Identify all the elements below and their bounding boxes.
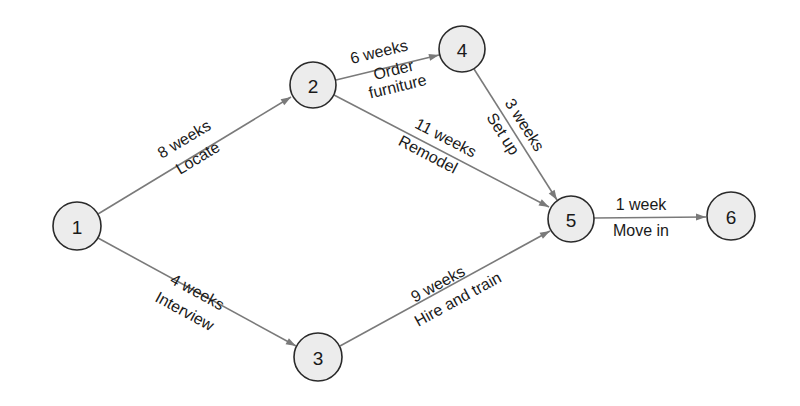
node-6-label: 6 bbox=[726, 207, 737, 228]
activity-network-diagram: 8 weeks Locate 4 weeks Interview 6 weeks… bbox=[0, 0, 800, 406]
edge-labels: 8 weeks Locate 4 weeks Interview 6 weeks… bbox=[153, 34, 669, 334]
node-4-label: 4 bbox=[457, 40, 468, 61]
edge-5-6 bbox=[594, 217, 706, 218]
node-1-label: 1 bbox=[72, 217, 83, 238]
node-1: 1 bbox=[53, 202, 101, 250]
node-3: 3 bbox=[294, 333, 342, 381]
edge-5-6-duration: 1 week bbox=[616, 196, 668, 213]
node-3-label: 3 bbox=[313, 348, 324, 369]
node-5: 5 bbox=[548, 196, 594, 242]
node-5-label: 5 bbox=[566, 210, 577, 231]
edge-5-6-activity: Move in bbox=[613, 222, 669, 239]
node-4: 4 bbox=[439, 26, 485, 72]
node-6: 6 bbox=[707, 192, 755, 240]
node-2-label: 2 bbox=[308, 76, 319, 97]
edge-4-5 bbox=[474, 69, 557, 200]
node-2: 2 bbox=[290, 62, 336, 108]
